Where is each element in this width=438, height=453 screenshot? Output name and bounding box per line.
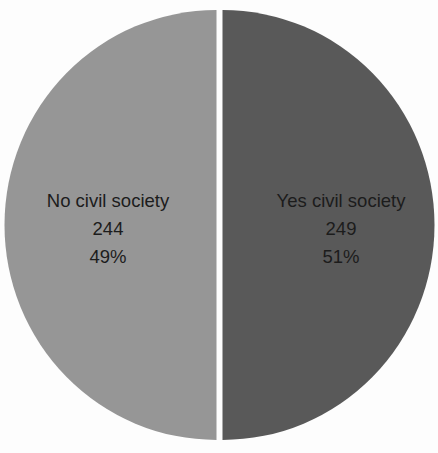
pie-label-yes-civil-society: Yes civil society 249 51% (246, 187, 436, 271)
pie-label-name-left: No civil society (8, 187, 208, 215)
pie-label-name-right: Yes civil society (246, 187, 436, 215)
pie-chart-figure: No civil society 244 49% Yes civil socie… (0, 0, 438, 453)
pie-label-no-civil-society: No civil society 244 49% (8, 187, 208, 271)
pie-label-value-right: 249 (246, 215, 436, 243)
pie-label-percent-left: 49% (8, 243, 208, 271)
pie-label-value-left: 244 (8, 215, 208, 243)
pie-label-percent-right: 51% (246, 243, 436, 271)
